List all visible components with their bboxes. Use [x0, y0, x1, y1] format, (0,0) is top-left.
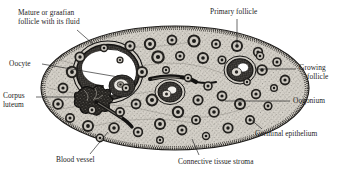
label-line-1: Growing — [299, 63, 326, 72]
label-line-2: luteum — [3, 100, 24, 109]
label-line-1: Connective tissue stroma — [178, 157, 254, 166]
label-mature-graafian-follicle: Mature or graafianfollicle with its flui… — [18, 9, 148, 26]
label-corpus-luteum: Corpusluteum — [3, 92, 43, 109]
label-primary-follicle: Primary follicle — [210, 8, 305, 17]
label-line-1: Germinal epithelium — [255, 129, 317, 138]
label-line-1: Oogonium — [293, 96, 325, 105]
label-line-2: follicle with its fluid — [18, 17, 80, 26]
label-germinal-epithelium: Germinal epithelium — [255, 130, 344, 139]
growing-follicle-secondary — [155, 80, 185, 105]
label-connective-tissue-stroma: Connective tissue stroma — [178, 158, 298, 167]
label-blood-vessel: Blood vessel — [56, 156, 126, 165]
oocyte-in-graafian — [109, 75, 135, 97]
label-line-2: follicle — [299, 73, 328, 82]
label-line-1: Primary follicle — [210, 7, 257, 16]
label-line-1: Blood vessel — [56, 155, 95, 164]
label-line-1: Oocyte — [9, 59, 31, 68]
label-oogonium: Oogonium — [293, 97, 344, 106]
growing-follicle — [224, 56, 256, 84]
label-growing-follicle: Growingfollicle — [299, 64, 344, 81]
label-oocyte: Oocyte — [9, 60, 59, 69]
